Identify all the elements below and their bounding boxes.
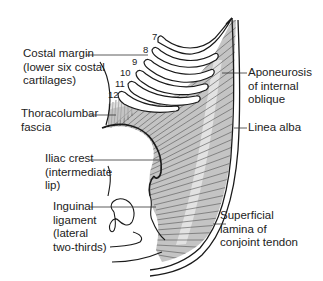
label-aponeurosis: Aponeurosis of internal oblique xyxy=(248,66,312,107)
label-iliac-crest: Iliac crest (intermediate lip) xyxy=(45,152,112,193)
rib-number-9: 9 xyxy=(132,56,137,67)
label-thoracolumbar-fascia: Thoracolumbar fascia xyxy=(21,107,98,134)
rib-number-11: 11 xyxy=(115,78,125,89)
label-costal-margin: Costal margin (lower six costal cartilag… xyxy=(23,47,105,88)
rib-number-10: 10 xyxy=(120,67,131,78)
label-inguinal-ligament: Inguinal ligament (lateral two-thirds) xyxy=(53,200,107,254)
label-linea-alba: Linea alba xyxy=(248,121,301,135)
label-conjoint-tendon: Superficial lamina of conjoint tendon xyxy=(220,209,298,250)
rib-number-7: 7 xyxy=(152,31,157,42)
rib-number-8: 8 xyxy=(143,44,148,55)
